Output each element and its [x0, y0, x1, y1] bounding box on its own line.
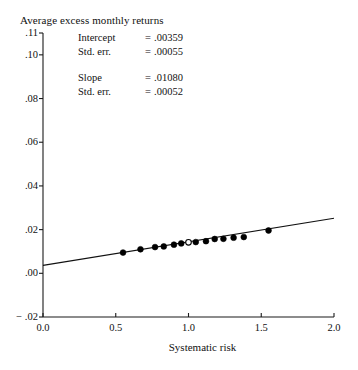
axes	[39, 33, 334, 317]
data-point-marker	[203, 238, 209, 244]
data-point-marker	[138, 246, 144, 252]
data-point-marker	[120, 250, 126, 256]
data-point-marker	[178, 240, 184, 246]
data-point-marker	[221, 236, 227, 242]
data-point-marker	[212, 236, 218, 242]
data-point-marker	[266, 228, 272, 234]
data-point-marker	[241, 234, 247, 240]
data-point-marker	[171, 242, 177, 248]
data-point-marker	[161, 244, 167, 250]
data-point-marker	[231, 235, 237, 241]
market-portfolio-marker	[186, 239, 192, 245]
plot-area	[0, 0, 358, 370]
data-point-marker	[193, 239, 199, 245]
data-point-marker	[152, 244, 158, 250]
chart-figure: Average excess monthly returns Intercept…	[0, 0, 358, 370]
